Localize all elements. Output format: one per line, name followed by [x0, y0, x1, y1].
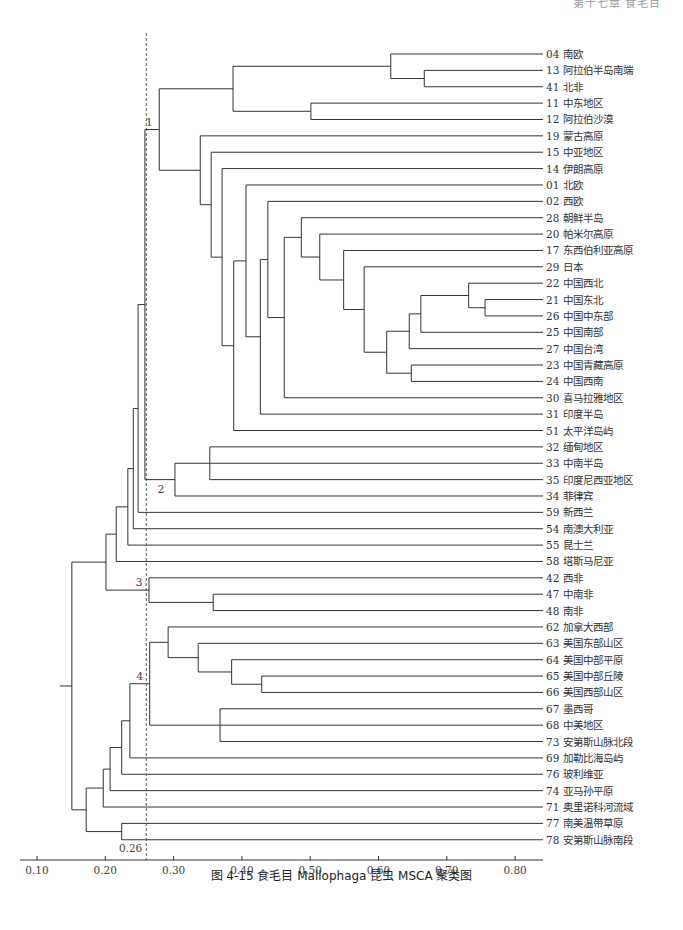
leaf-label: 04 南欧: [546, 48, 584, 60]
leaf-label: 34 菲律宾: [546, 490, 593, 502]
leaf-label: 71 奥里诺科河流域: [546, 801, 634, 813]
leaf-label: 41 北非: [546, 81, 584, 93]
threshold-line: 0.26: [119, 33, 146, 860]
leaf-label: 69 加勒比海岛屿: [546, 752, 623, 764]
leaf-label: 66 美国西部山区: [546, 686, 623, 698]
leaf-label: 31 印度半岛: [546, 408, 603, 420]
leaf-label: 13 阿拉伯半岛南端: [546, 64, 634, 76]
cluster-label: 1: [146, 116, 153, 129]
figure-caption: 图 4-15 食毛目 Mallophaga 昆虫 MSCA 聚类图: [0, 866, 683, 883]
leaf-labels: 04 南欧13 阿拉伯半岛南端41 北非11 中东地区12 阿拉伯沙漠19 蒙古…: [546, 48, 634, 846]
leaf-label: 33 中南半岛: [546, 457, 603, 469]
leaf-label: 21 中国东北: [546, 294, 604, 306]
leaf-label: 76 玻利维亚: [546, 768, 604, 780]
leaf-label: 29 日本: [546, 261, 584, 273]
leaf-label: 77 南美温带草原: [546, 817, 623, 829]
leaf-label: 20 帕米尔高原: [546, 228, 613, 240]
leaf-label: 35 印度尼西亚地区: [546, 474, 633, 486]
leaf-label: 74 亚马孙平原: [546, 785, 613, 797]
leaf-label: 27 中国台湾: [546, 343, 604, 355]
leaf-label: 22 中国西北: [546, 277, 604, 289]
leaf-label: 15 中亚地区: [546, 146, 603, 158]
leaf-label: 25 中国南部: [546, 326, 603, 338]
leaf-label: 26 中国中东部: [546, 310, 613, 322]
leaf-label: 28 朝鲜半岛: [546, 212, 603, 224]
leaf-label: 11 中东地区: [546, 97, 603, 109]
leaf-label: 62 加拿大西部: [546, 621, 613, 633]
cluster-label: 2: [157, 483, 164, 496]
leaf-label: 59 新西兰: [546, 506, 593, 518]
leaf-label: 47 中南非: [546, 588, 594, 600]
leaf-label: 14 伊朗高原: [546, 163, 603, 175]
leaf-label: 24 中国西南: [546, 375, 603, 387]
leaf-label: 30 喜马拉雅地区: [546, 392, 623, 404]
leaf-label: 48 南非: [546, 605, 584, 617]
leaf-label: 55 昆士兰: [546, 539, 593, 551]
leaf-label: 02 西欧: [546, 195, 584, 207]
leaf-label: 65 美国中部丘陵: [546, 670, 624, 682]
leaf-label: 23 中国青藏高原: [546, 359, 623, 371]
cluster-label: 4: [136, 670, 143, 683]
leaf-label: 32 缅甸地区: [546, 441, 603, 453]
leaf-label: 78 安第斯山脉南段: [546, 834, 634, 846]
leaf-label: 42 西非: [546, 572, 584, 584]
leaf-label: 58 塔斯马尼亚: [546, 555, 614, 567]
leaf-label: 63 美国东部山区: [546, 637, 623, 649]
leaf-label: 12 阿拉伯沙漠: [546, 113, 614, 125]
leaf-label: 54 南澳大利亚: [546, 523, 614, 535]
leaf-label: 64 美国中部平原: [546, 654, 623, 666]
leaf-label: 73 安第斯山脉北段: [546, 736, 634, 748]
cluster-label: 3: [136, 576, 143, 589]
leaf-label: 01 北欧: [546, 179, 584, 191]
leaf-label: 68 中美地区: [546, 719, 603, 731]
leaf-label: 19 蒙古高原: [546, 130, 603, 142]
dendrogram-branches: [60, 54, 543, 840]
threshold-label: 0.26: [119, 842, 143, 854]
leaf-label: 67 墨西哥: [546, 703, 593, 715]
leaf-label: 51 太平洋岛屿: [546, 425, 613, 437]
leaf-label: 17 东西伯利亚高原: [546, 244, 633, 256]
dendrogram-chart: 0.26 04 南欧13 阿拉伯半岛南端41 北非11 中东地区12 阿拉伯沙漠…: [0, 0, 683, 930]
cluster-labels: 1234: [136, 116, 165, 683]
